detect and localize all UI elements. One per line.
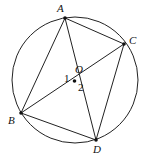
segment-cd [96, 44, 124, 140]
point-d [94, 138, 98, 142]
angle-2-label: 2 [78, 82, 84, 93]
label-d: D [93, 144, 101, 155]
label-a: A [57, 3, 64, 14]
circle-quadrilateral-figure [0, 0, 145, 161]
label-o: O [75, 64, 83, 75]
point-c [122, 42, 126, 46]
label-b: B [8, 115, 15, 126]
point-o [73, 79, 77, 83]
point-a [63, 16, 67, 20]
segment-ad [65, 18, 96, 140]
geometry-diagram: A C B D O 1 2 [0, 0, 145, 161]
point-b [19, 111, 23, 115]
label-c: C [129, 35, 136, 46]
angle-1-label: 1 [64, 73, 70, 84]
